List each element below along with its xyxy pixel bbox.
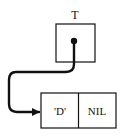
list-node: 'D' NIL bbox=[41, 93, 116, 128]
node-next-field: NIL bbox=[88, 105, 107, 117]
pointer-variable-t: T bbox=[56, 8, 95, 62]
pointer-label: T bbox=[71, 8, 79, 22]
node-data-field: 'D' bbox=[54, 105, 66, 117]
diagram-canvas: T 'D' NIL bbox=[0, 0, 125, 139]
